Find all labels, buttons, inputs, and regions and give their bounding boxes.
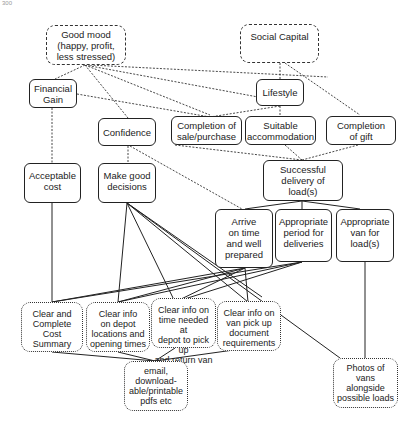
node-lifestyle: Lifestyle [256, 79, 304, 106]
node-photos-of-vans: Photos of vans alongside possible loads [333, 358, 398, 408]
node-confidence: Confidence [98, 118, 156, 146]
node-good-mood: Good mood (happy, profit, less stressed) [46, 25, 126, 65]
node-clear-cost-summary: Clear and Complete Cost Summary [21, 302, 83, 352]
node-financial-gain: Financial Gain [29, 79, 77, 108]
node-arrive-on-time: Arrive on time and well prepared [215, 209, 273, 268]
node-appropriate-van: Appropriate van for load(s) [336, 209, 394, 262]
node-completion-sale: Completion of sale/purchase [171, 116, 242, 145]
node-make-good-decisions: Make good decisions [98, 163, 156, 203]
node-clear-document-info: Clear info on van pick up document requi… [217, 301, 281, 351]
node-completion-gift: Completion of gift [326, 116, 396, 145]
node-suitable-accommodation: Suitable accommodation [245, 116, 316, 145]
node-email-pdfs: email, download- able/printable pdfs etc [124, 361, 188, 411]
node-clear-time-info: Clear info on time needed at depot to pi… [151, 298, 216, 348]
node-clear-depot-info: Clear info on depot locations and openin… [86, 302, 150, 352]
node-acceptable-cost: Acceptable cost [24, 163, 81, 203]
node-appropriate-period: Appropriate period for deliveries [275, 209, 332, 262]
node-social-capital: Social Capital [240, 24, 319, 63]
node-successful-delivery: Successful delivery of load(s) [263, 160, 343, 201]
